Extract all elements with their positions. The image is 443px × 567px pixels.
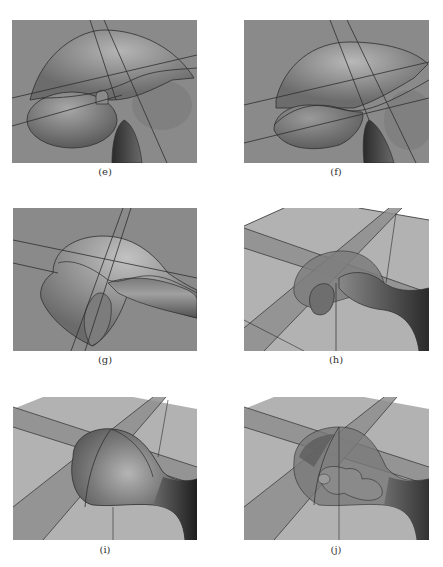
panel-caption-h: (h) — [306, 354, 366, 366]
panel-caption-f: (f) — [306, 166, 366, 178]
panel-caption-i: (i) — [75, 544, 135, 556]
render-3d-surface — [244, 20, 429, 163]
panel-caption-e: (e) — [75, 166, 135, 178]
figure-panel-f — [244, 20, 429, 163]
figure-panel-j — [244, 397, 429, 540]
render-3d-surface — [244, 208, 429, 351]
render-3d-surface — [13, 397, 197, 540]
render-3d-surface — [244, 397, 429, 540]
panel-caption-g: (g) — [75, 354, 135, 366]
panel-caption-j: (j) — [306, 544, 366, 556]
figure-panel-i — [13, 397, 197, 540]
render-3d-surface — [12, 20, 197, 163]
render-3d-surface — [13, 208, 197, 351]
figure-panel-h — [244, 208, 429, 351]
figure-panel-e — [12, 20, 197, 163]
figure-panel-g — [13, 208, 197, 351]
